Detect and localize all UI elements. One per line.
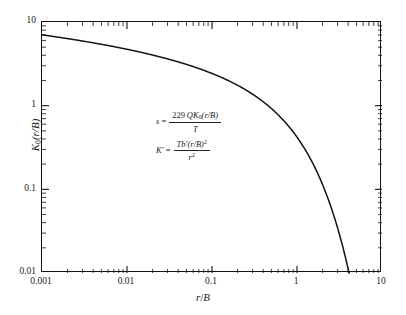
x-axis-label-b: B xyxy=(203,291,210,303)
eq1-equals: = xyxy=(161,116,166,126)
eq1-denominator: T xyxy=(169,123,221,134)
y-tick-label-1: 1 xyxy=(0,99,36,109)
y-tick-label-10: 10 xyxy=(0,15,36,25)
eq2-numerator: Tb′(r/B)2 xyxy=(174,139,210,151)
y-tick-label-0.1: 0.1 xyxy=(0,183,36,193)
eq1-arg: (r/B) xyxy=(202,110,219,120)
data-curve-k0 xyxy=(42,22,382,273)
eq2-lhs: K′ xyxy=(156,145,164,155)
eq2-fraction: Tb′(r/B)2 r2 xyxy=(174,139,210,162)
eq1-numerator: 229 QK0(r/B) xyxy=(169,110,221,123)
eq2-tb: Tb xyxy=(177,139,186,149)
x-tick-label-1: 1 xyxy=(266,276,326,286)
plot-area xyxy=(41,21,381,272)
x-tick-label-0.001: 0.001 xyxy=(11,276,71,286)
x-tick-label-0.01: 0.01 xyxy=(96,276,156,286)
x-tick-label-10: 10 xyxy=(351,276,406,286)
eq1-coefficient: 229 xyxy=(172,110,185,120)
x-tick-label-0.1: 0.1 xyxy=(181,276,241,286)
annotation-leakance-equation: K′ = Tb′(r/B)2 r2 xyxy=(156,139,211,162)
y-tick-label-0.01: 0.01 xyxy=(0,266,36,276)
eq2-arg: (r/B) xyxy=(187,139,204,149)
eq1-fraction: 229 QK0(r/B) T xyxy=(169,110,221,135)
y-axis-label-arg: (r/B) xyxy=(29,119,41,140)
eq1-lhs: s xyxy=(156,116,159,126)
annotation-drawdown-equation: s = 229 QK0(r/B) T xyxy=(156,110,222,135)
x-axis-label: r/B xyxy=(0,291,406,303)
eq2-equals: = xyxy=(166,145,171,155)
eq2-r-exponent: 2 xyxy=(192,152,195,158)
y-axis-label-k: K xyxy=(29,144,41,151)
eq2-arg-exponent: 2 xyxy=(204,139,207,145)
eq2-lhs-prime: ′ xyxy=(162,145,164,155)
eq2-denominator: r2 xyxy=(174,151,210,162)
figure-bessel-k0-type-curve: K0(r/B) 10 1 0.1 0.01 0.001 0.01 0.1 1 1… xyxy=(0,0,406,315)
